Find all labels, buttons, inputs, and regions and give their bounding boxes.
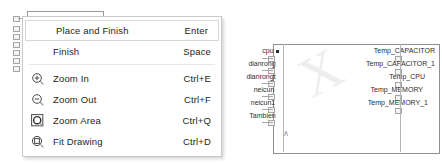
input-port-wire: [262, 109, 273, 110]
menu-item-label: Finish: [53, 46, 183, 57]
menu-item-place-and-finish[interactable]: Place and Finish Enter: [25, 20, 219, 41]
input-port-marker[interactable]: [268, 120, 275, 126]
input-port-label: neicun1: [243, 99, 283, 107]
left-block-port[interactable]: [13, 16, 20, 22]
menu-item-finish[interactable]: Finish Space: [23, 41, 221, 62]
menu-item-shortcut: Ctrl+E: [183, 73, 211, 84]
output-port-label: Temp_MEMORY_1: [315, 99, 428, 107]
input-port-wire: [262, 58, 273, 59]
output-port-label: Temp_MEMORY: [320, 86, 423, 94]
input-port-label: cpu: [253, 47, 283, 55]
zoom-in-icon: [23, 72, 53, 86]
input-port-label: neicun: [245, 86, 283, 94]
left-block-port[interactable]: [13, 50, 20, 56]
menu-item-shortcut: Enter: [185, 25, 208, 36]
menu-item-fit-drawing[interactable]: Fit Drawing Ctrl+D: [23, 131, 221, 152]
menu-item-label: Zoom In: [53, 73, 183, 84]
output-port-label: Temp_CAPACITOR_1: [320, 60, 435, 68]
menu-item-zoom-in[interactable]: Zoom In Ctrl+E: [23, 68, 221, 89]
menu-item-zoom-area[interactable]: Zoom Area Ctrl+Q: [23, 110, 221, 131]
menu-item-shortcut: Ctrl+D: [183, 136, 211, 147]
output-port-label: Temp_CAPACITOR: [330, 47, 435, 55]
menu-item-label: Zoom Area: [53, 115, 182, 126]
output-port-label: Temp_CPU: [330, 73, 425, 81]
cursor-arrow-icon: ∧: [283, 129, 289, 138]
left-block-port[interactable]: [13, 26, 20, 32]
input-port-label: dianrong: [241, 60, 283, 68]
menu-item-shortcut: Ctrl+F: [184, 94, 211, 105]
menu-separator: [29, 64, 215, 65]
input-port-wire: [262, 96, 273, 97]
zoom-area-icon: [23, 114, 53, 128]
left-block-port[interactable]: [13, 66, 20, 72]
menu-item-zoom-out[interactable]: Zoom Out Ctrl+F: [23, 89, 221, 110]
input-port-wire: [262, 122, 273, 123]
input-port-label: Tambien: [241, 112, 284, 120]
left-block-port[interactable]: [13, 34, 20, 40]
input-port-wire: [262, 70, 273, 71]
menu-item-label: Zoom Out: [53, 94, 184, 105]
menu-item-shortcut: Space: [183, 46, 211, 57]
zoom-out-icon: [23, 93, 53, 107]
menu-item-shortcut: Ctrl+Q: [182, 115, 211, 126]
fit-drawing-icon: [23, 135, 53, 149]
input-port-label: dianrongt: [238, 73, 284, 81]
menu-item-label: Place and Finish: [56, 25, 185, 36]
context-menu[interactable]: Place and Finish Enter Finish Space Zoom…: [22, 16, 222, 157]
left-block-port[interactable]: [13, 42, 20, 48]
menu-item-label: Fit Drawing: [53, 136, 183, 147]
block-inner-edge-right: [400, 44, 401, 152]
left-block-port[interactable]: [13, 58, 20, 64]
input-port-wire: [262, 83, 273, 84]
